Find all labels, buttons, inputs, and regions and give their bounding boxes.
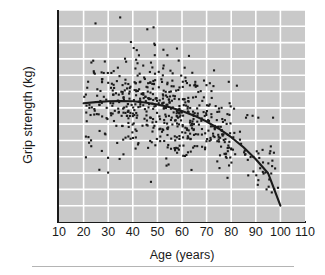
scatter-point <box>215 105 217 107</box>
scatter-point <box>115 125 117 127</box>
scatter-point <box>189 133 191 135</box>
scatter-point <box>192 111 194 113</box>
scatter-point <box>196 85 198 87</box>
scatter-point <box>132 124 134 126</box>
scatter-point <box>227 150 229 152</box>
scatter-point <box>136 114 138 116</box>
scatter-point <box>218 140 220 142</box>
scatter-point <box>127 122 129 124</box>
scatter-point <box>154 98 156 100</box>
scatter-point <box>147 106 149 108</box>
scatter-point <box>94 22 96 24</box>
scatter-point <box>98 104 100 106</box>
scatter-point <box>151 121 153 123</box>
scatter-point <box>113 84 115 86</box>
scatter-point <box>159 135 161 137</box>
scatter-point <box>144 108 146 110</box>
scatter-point <box>88 142 90 144</box>
scatter-point <box>125 61 127 63</box>
scatter-point <box>191 72 193 74</box>
scatter-point <box>218 167 220 169</box>
scatter-point <box>127 110 129 112</box>
scatter-point <box>150 181 152 183</box>
scatter-point <box>101 115 103 117</box>
scatter-point <box>85 156 87 158</box>
scatter-point <box>226 113 228 115</box>
scatter-point <box>139 73 141 75</box>
scatter-point <box>119 16 121 18</box>
scatter-point <box>137 143 139 145</box>
scatter-point <box>156 112 158 114</box>
scatter-point <box>107 82 109 84</box>
scatter-point <box>178 60 180 62</box>
scatter-point <box>266 188 268 190</box>
scatter-point <box>107 172 109 174</box>
scatter-point-outlier <box>257 117 259 119</box>
scatter-point <box>270 145 272 147</box>
scatter-point <box>194 81 196 83</box>
scatter-point <box>189 84 191 86</box>
scatter-point <box>129 115 131 117</box>
scatter-point <box>104 60 106 62</box>
scatter-point <box>147 147 149 149</box>
scatter-point <box>134 103 136 105</box>
scatter-point <box>136 49 138 51</box>
scatter-point <box>168 91 170 93</box>
scatter-point <box>98 113 100 115</box>
scatter-point <box>116 142 118 144</box>
scatter-point <box>118 111 120 113</box>
scatter-point <box>150 62 152 64</box>
scatter-point <box>262 173 264 175</box>
scatter-point <box>205 114 207 116</box>
scatter-point <box>189 107 191 109</box>
scatter-point <box>135 82 137 84</box>
scatter-point <box>162 49 164 51</box>
scatter-point <box>137 75 139 77</box>
scatter-point <box>145 110 147 112</box>
scatter-point <box>225 156 227 158</box>
scatter-point <box>94 110 96 112</box>
scatter-point <box>216 111 218 113</box>
scatter-point <box>262 161 264 163</box>
scatter-point <box>128 126 130 128</box>
scatter-point <box>176 115 178 117</box>
scatter-point <box>110 72 112 74</box>
scatter-point <box>153 125 155 127</box>
scatter-point <box>149 71 151 73</box>
scatter-point <box>115 92 117 94</box>
scatter-point <box>182 86 184 88</box>
scatter-point <box>126 115 128 117</box>
grip-strength-scatter-figure: Grip strength (kg) Age (years) 304050607… <box>0 0 325 275</box>
scatter-point <box>239 139 241 141</box>
scatter-point <box>146 124 148 126</box>
scatter-point <box>159 118 161 120</box>
scatter-point <box>112 94 114 96</box>
scatter-point <box>131 104 133 106</box>
scatter-point <box>227 144 229 146</box>
scatter-point <box>114 110 116 112</box>
scatter-point <box>128 93 130 95</box>
scatter-point <box>126 106 128 108</box>
scatter-point <box>176 122 178 124</box>
scatter-point <box>135 59 137 61</box>
scatter-point <box>169 95 171 97</box>
scatter-point <box>121 115 123 117</box>
scatter-point <box>152 118 154 120</box>
scatter-point <box>236 85 238 87</box>
scatter-point <box>152 99 154 101</box>
scatter-point <box>210 139 212 141</box>
scatter-point <box>130 138 132 140</box>
scatter-point <box>124 79 126 81</box>
scatter-point <box>96 88 98 90</box>
scatter-point <box>225 153 227 155</box>
scatter-point <box>113 70 115 72</box>
scatter-point <box>124 137 126 139</box>
scatter-point <box>163 64 165 66</box>
scatter-point <box>90 145 92 147</box>
scatter-point <box>138 54 140 56</box>
scatter-point <box>186 82 188 84</box>
scatter-point <box>122 153 124 155</box>
scatter-point <box>112 102 114 104</box>
x-axis-title: Age (years) <box>58 248 306 262</box>
scatter-point <box>151 66 153 68</box>
